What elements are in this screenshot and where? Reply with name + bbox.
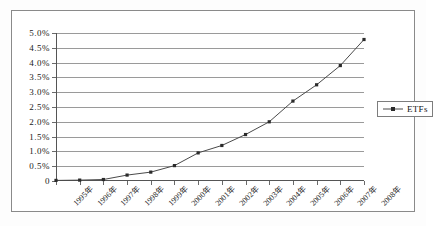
data-point-marker bbox=[173, 164, 176, 167]
data-point-marker bbox=[244, 133, 247, 136]
x-axis-tick-label: 2002年 bbox=[236, 183, 261, 208]
x-axis-tick-label: 2006年 bbox=[331, 183, 356, 208]
data-point-marker bbox=[149, 171, 152, 174]
x-axis-labels: 1995年1996年1997年1998年1999年2000年2001年2002年… bbox=[56, 183, 364, 231]
y-axis-tick-label: 3.0% bbox=[29, 87, 50, 97]
x-axis-tick-label: 2007年 bbox=[354, 183, 379, 208]
x-axis-tick-label: 1998年 bbox=[141, 183, 166, 208]
data-point-marker bbox=[291, 99, 294, 102]
x-axis-tick-label: 2001年 bbox=[212, 183, 237, 208]
legend-label-etfs: ETFs bbox=[407, 104, 428, 114]
y-axis-tick-label: 0 bbox=[45, 176, 50, 186]
data-point-marker bbox=[125, 173, 128, 176]
y-axis-tick-label: 1.5% bbox=[29, 132, 50, 142]
data-point-marker bbox=[102, 178, 105, 181]
y-axis-tick-label: 2.0% bbox=[29, 117, 50, 127]
y-axis-tick-label: 4.5% bbox=[29, 43, 50, 53]
x-axis-tick-label: 2000年 bbox=[188, 183, 213, 208]
data-point-marker bbox=[78, 179, 81, 182]
data-point-marker bbox=[268, 120, 271, 123]
x-axis-tick-label: 1996年 bbox=[94, 183, 119, 208]
y-axis-tick-label: 2.5% bbox=[29, 102, 50, 112]
data-point-marker bbox=[54, 179, 57, 182]
legend[interactable]: ETFs bbox=[377, 101, 433, 117]
y-axis-tick-label: 3.5% bbox=[29, 72, 50, 82]
x-axis-tick-label: 2008年 bbox=[378, 183, 403, 208]
series-etfs bbox=[56, 33, 364, 181]
data-point-marker bbox=[220, 144, 223, 147]
data-point-marker bbox=[315, 83, 318, 86]
y-axis-tick-label: 5.0% bbox=[29, 28, 50, 38]
y-axis-tick-label: 0.5% bbox=[29, 161, 50, 171]
y-axis-tick-label: 4.0% bbox=[29, 58, 50, 68]
x-axis-tick-label: 1997年 bbox=[117, 183, 142, 208]
series-line bbox=[56, 40, 364, 181]
plot-area: 00.5%1.0%1.5%2.0%2.5%3.0%3.5%4.0%4.5%5.0… bbox=[56, 33, 364, 181]
figure-frame: 00.5%1.0%1.5%2.0%2.5%3.0%3.5%4.0%4.5%5.0… bbox=[11, 10, 415, 212]
data-point-marker bbox=[197, 151, 200, 154]
x-axis-tick-label: 2004年 bbox=[283, 183, 308, 208]
legend-marker-icon bbox=[382, 105, 404, 113]
data-point-marker bbox=[362, 38, 365, 41]
x-axis-tick-label: 1999年 bbox=[165, 183, 190, 208]
y-axis-tick-label: 1.0% bbox=[29, 146, 50, 156]
data-point-marker bbox=[339, 64, 342, 67]
x-axis-tick-label: 2003年 bbox=[260, 183, 285, 208]
x-axis-tick-label: 1995年 bbox=[70, 183, 95, 208]
x-axis-tick bbox=[364, 181, 365, 185]
x-axis-tick-label: 2005年 bbox=[307, 183, 332, 208]
